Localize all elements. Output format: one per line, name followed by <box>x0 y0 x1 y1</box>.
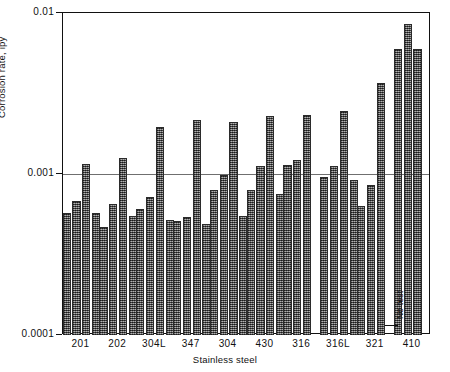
x-tick-label: 410 <box>393 338 430 349</box>
bar <box>220 175 228 335</box>
bar <box>266 116 274 335</box>
bar <box>367 185 375 335</box>
bar <box>99 227 107 335</box>
bar <box>283 165 291 335</box>
bar <box>210 190 218 335</box>
bar <box>320 177 328 335</box>
bar <box>330 166 338 335</box>
bar-series-layer <box>63 13 429 333</box>
y-tick-label: 0.01 <box>33 6 54 17</box>
x-tick-label: 304L <box>136 338 173 349</box>
x-tick-label: 316L <box>320 338 357 349</box>
bar <box>404 24 412 335</box>
bar <box>173 221 181 335</box>
plot-area: No test <box>62 12 430 334</box>
bar <box>256 166 264 335</box>
bar <box>156 127 164 335</box>
x-tick-label: 202 <box>99 338 136 349</box>
x-tick-label: 430 <box>246 338 283 349</box>
bar <box>303 115 311 335</box>
bar <box>377 83 385 335</box>
bar <box>136 209 144 335</box>
bar <box>340 111 348 335</box>
x-tick-label: 316 <box>283 338 320 349</box>
y-tick-label: 0.0001 <box>22 328 54 339</box>
chart-figure: Corrosion rate, ipy 0.010.0010.0001 No t… <box>0 0 450 372</box>
no-test-leader-line <box>385 325 398 326</box>
bar <box>63 213 71 335</box>
x-tick-label: 321 <box>356 338 393 349</box>
bar <box>109 204 117 335</box>
bar <box>357 206 365 335</box>
x-axis-label: Stainless steel <box>0 354 450 365</box>
bar <box>82 164 90 335</box>
x-tick-label: 347 <box>172 338 209 349</box>
no-test-annotation: No test <box>395 291 405 319</box>
y-axis-label: Corrosion rate, ipy <box>0 0 7 118</box>
bar <box>119 158 127 335</box>
bar <box>247 190 255 335</box>
bar <box>293 160 301 335</box>
y-tick-label: 0.001 <box>27 167 54 178</box>
bar <box>72 201 80 335</box>
x-tick-label: 304 <box>209 338 246 349</box>
bar <box>146 197 154 335</box>
bar <box>413 49 421 335</box>
x-tick-label: 201 <box>62 338 99 349</box>
bar <box>193 120 201 335</box>
bar <box>229 122 237 335</box>
bar <box>183 217 191 335</box>
